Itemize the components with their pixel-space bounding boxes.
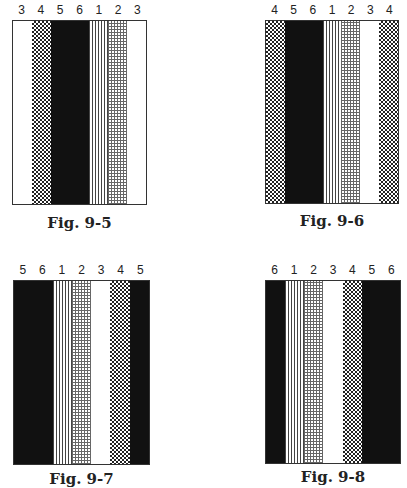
- band-label: 3: [91, 262, 111, 278]
- band-black: [14, 281, 33, 464]
- band-white: [13, 21, 32, 204]
- band-checker: [266, 21, 285, 203]
- band-checker: [32, 21, 51, 204]
- band-label: 2: [108, 2, 127, 18]
- band-black: [381, 281, 400, 463]
- band-label: 3: [128, 2, 147, 18]
- band-label: 3: [12, 2, 31, 18]
- band-white: [323, 281, 342, 463]
- band-label: 5: [284, 2, 303, 18]
- band-black: [130, 281, 149, 464]
- band-label: 6: [265, 262, 284, 278]
- figure-caption: Fig. 9-7: [13, 470, 150, 488]
- band-grid: [304, 281, 323, 463]
- band-lines: [89, 21, 108, 204]
- band-label: 4: [111, 262, 131, 278]
- band-box: [12, 20, 147, 205]
- band-checker: [110, 281, 129, 464]
- band-label: 6: [70, 2, 89, 18]
- band-lines: [323, 21, 342, 203]
- band-label: 5: [130, 262, 150, 278]
- band-black: [285, 21, 304, 203]
- band-lines: [53, 281, 72, 464]
- band-labels: 4 5 6 1 2 3 4: [265, 2, 399, 18]
- band-grid: [72, 281, 91, 464]
- band-box: [265, 280, 401, 464]
- figure-caption: Fig. 9-6: [265, 212, 399, 230]
- band-black: [304, 21, 323, 203]
- band-label: 6: [382, 262, 401, 278]
- band-white: [91, 281, 110, 464]
- band-label: 2: [304, 262, 323, 278]
- figure-caption: Fig. 9-8: [265, 468, 401, 486]
- band-label: 5: [13, 262, 33, 278]
- band-label: 1: [89, 2, 108, 18]
- band-label: 1: [52, 262, 72, 278]
- band-label: 2: [342, 2, 361, 18]
- band-white: [127, 21, 146, 204]
- band-label: 1: [322, 2, 341, 18]
- band-labels: 3 4 5 6 1 2 3: [12, 2, 147, 18]
- band-box: [265, 20, 399, 204]
- figure-9-5: 3 4 5 6 1 2 3 Fig. 9-5: [12, 2, 147, 242]
- band-label: 6: [33, 262, 53, 278]
- band-white: [360, 21, 379, 203]
- band-box: [13, 280, 150, 465]
- band-label: 4: [380, 2, 399, 18]
- band-label: 6: [303, 2, 322, 18]
- band-black: [362, 281, 381, 463]
- figure-9-8: 6 1 2 3 4 5 6 Fig. 9-8: [265, 262, 401, 488]
- figure-9-6: 4 5 6 1 2 3 4 Fig. 9-6: [265, 2, 399, 242]
- band-grid: [108, 21, 127, 204]
- band-black: [33, 281, 52, 464]
- band-label: 2: [72, 262, 92, 278]
- band-label: 3: [361, 2, 380, 18]
- band-black: [266, 281, 285, 463]
- band-labels: 6 1 2 3 4 5 6: [265, 262, 401, 278]
- band-label: 5: [51, 2, 70, 18]
- band-checker: [343, 281, 362, 463]
- band-black: [51, 21, 70, 204]
- figure-9-7: 5 6 1 2 3 4 5 Fig. 9-7: [13, 262, 150, 488]
- band-label: 5: [362, 262, 381, 278]
- band-label: 1: [284, 262, 303, 278]
- band-grid: [341, 21, 360, 203]
- band-checker: [379, 21, 398, 203]
- figure-caption: Fig. 9-5: [12, 214, 147, 232]
- band-lines: [285, 281, 304, 463]
- band-labels: 5 6 1 2 3 4 5: [13, 262, 150, 278]
- band-label: 4: [31, 2, 50, 18]
- band-black: [70, 21, 89, 204]
- band-label: 4: [265, 2, 284, 18]
- band-label: 4: [343, 262, 362, 278]
- band-label: 3: [323, 262, 342, 278]
